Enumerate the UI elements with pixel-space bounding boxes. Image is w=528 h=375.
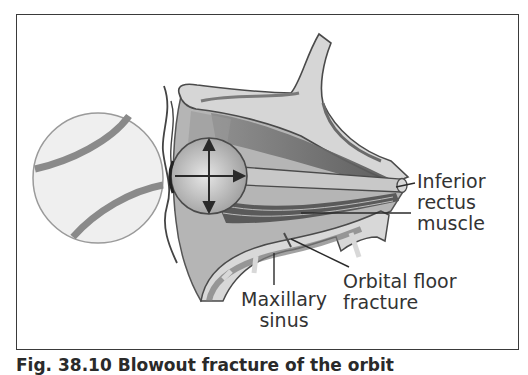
label-line: muscle: [417, 213, 517, 234]
label-line: rectus: [417, 192, 517, 213]
figure-caption: Fig. 38.10 Blowout fracture of the orbit: [16, 355, 394, 375]
label-line: Maxillary: [229, 289, 339, 310]
label-orbital-floor-fracture: Orbital floor fracture: [343, 271, 457, 313]
baseball-icon: [33, 113, 163, 243]
label-line: sinus: [229, 310, 339, 331]
label-line: Orbital floor: [343, 271, 457, 292]
label-inferior-rectus-muscle: Inferior rectus muscle: [417, 171, 517, 234]
label-maxillary-sinus: Maxillary sinus: [229, 289, 339, 331]
figure-frame: Inferior rectus muscle Orbital floor fra…: [16, 14, 519, 350]
label-line: Inferior: [417, 171, 517, 192]
label-line: fracture: [343, 292, 457, 313]
